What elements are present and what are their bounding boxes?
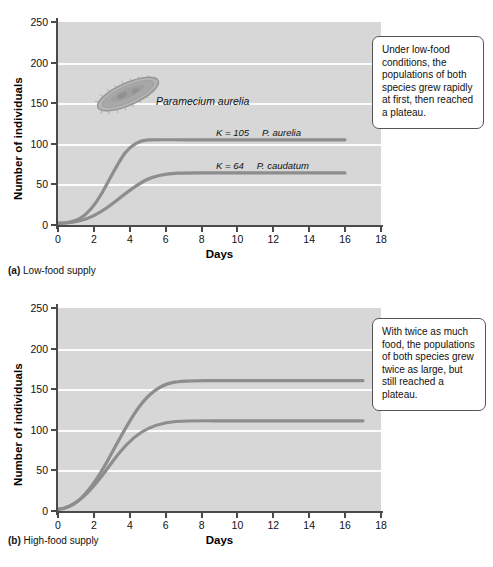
x-ticklabel-16-b: 16 xyxy=(334,520,356,530)
x-tick-2-b xyxy=(93,513,95,518)
x-tick-10-b xyxy=(236,513,238,518)
x-ticklabel-18-b: 18 xyxy=(370,520,392,530)
x-tick-14-b xyxy=(308,513,310,518)
x-tick-8-a xyxy=(201,227,203,232)
x-axis-title-a: Days xyxy=(58,248,381,260)
callout-low-food: Under low-food conditions, the populatio… xyxy=(372,36,484,129)
curve-aurelia-b xyxy=(58,381,363,510)
y-tick-100-b xyxy=(51,429,56,431)
caption-a: (a) Low-food supply xyxy=(8,265,96,276)
y-tick-250-a xyxy=(51,21,56,23)
y-ticklabel-0-b: 0 xyxy=(18,506,48,516)
y-tick-50-b xyxy=(51,469,56,471)
y-axis-a xyxy=(56,18,58,229)
x-ticklabel-8-b: 8 xyxy=(191,520,213,530)
callout-high-food: With twice as much food, the populations… xyxy=(372,318,486,411)
panel-low-food-supply: Paramecium aurelia K = 105P. aurelia K =… xyxy=(0,0,493,290)
y-tick-50-a xyxy=(51,183,56,185)
y-tick-100-a xyxy=(51,143,56,145)
x-ticklabel-0-a: 0 xyxy=(47,234,69,244)
y-tick-150-b xyxy=(51,388,56,390)
x-tick-8-b xyxy=(201,513,203,518)
curve-label-caudatum-a: K = 64P. caudatum xyxy=(216,160,309,171)
x-tick-16-b xyxy=(344,513,346,518)
k-value-aurelia-a: K = 105 xyxy=(216,127,249,138)
x-ticklabel-6-a: 6 xyxy=(155,234,177,244)
species-short-aurelia-a: P. aurelia xyxy=(262,127,301,138)
x-ticklabel-4-a: 4 xyxy=(119,234,141,244)
y-axis-b xyxy=(56,304,58,515)
curve-label-aurelia-a: K = 105P. aurelia xyxy=(216,127,301,138)
x-axis-a xyxy=(56,225,383,227)
y-tick-200-a xyxy=(51,62,56,64)
y-tick-150-a xyxy=(51,102,56,104)
caption-b-prefix: (b) xyxy=(8,535,21,546)
x-ticklabel-12-b: 12 xyxy=(262,520,284,530)
x-ticklabel-10-b: 10 xyxy=(226,520,248,530)
x-tick-0-a xyxy=(57,227,59,232)
x-ticklabel-2-a: 2 xyxy=(83,234,105,244)
x-tick-10-a xyxy=(236,227,238,232)
x-tick-18-b xyxy=(380,513,382,518)
x-tick-2-a xyxy=(93,227,95,232)
x-ticklabel-4-b: 4 xyxy=(119,520,141,530)
y-axis-title-a: Number of individuals xyxy=(12,77,24,200)
x-tick-4-b xyxy=(129,513,131,518)
x-tick-18-a xyxy=(380,227,382,232)
x-axis-title-b: Days xyxy=(58,534,381,546)
y-tick-250-b xyxy=(51,307,56,309)
caption-b-text: High-food supply xyxy=(24,535,99,546)
x-ticklabel-10-a: 10 xyxy=(226,234,248,244)
x-ticklabel-6-b: 6 xyxy=(155,520,177,530)
x-ticklabel-12-a: 12 xyxy=(262,234,284,244)
caption-a-text: Low-food supply xyxy=(23,265,96,276)
y-tick-200-b xyxy=(51,348,56,350)
caption-a-prefix: (a) xyxy=(8,265,20,276)
x-ticklabel-8-a: 8 xyxy=(191,234,213,244)
panel-high-food-supply: Paramecium caudatum K = 195P. aurelia K … xyxy=(0,290,493,567)
x-tick-12-a xyxy=(272,227,274,232)
y-ticklabel-200-a: 200 xyxy=(18,58,48,68)
x-ticklabel-2-b: 2 xyxy=(83,520,105,530)
y-ticklabel-0-a: 0 xyxy=(18,220,48,230)
y-ticklabel-250-a: 250 xyxy=(18,17,48,27)
x-ticklabel-16-a: 16 xyxy=(334,234,356,244)
x-ticklabel-14-b: 14 xyxy=(298,520,320,530)
x-tick-14-a xyxy=(308,227,310,232)
y-ticklabel-250-b: 250 xyxy=(18,303,48,313)
y-ticklabel-200-b: 200 xyxy=(18,344,48,354)
x-ticklabel-18-a: 18 xyxy=(370,234,392,244)
curve-caudatum-a xyxy=(58,173,345,224)
y-axis-title-b: Number of individuals xyxy=(12,363,24,486)
x-axis-b xyxy=(56,511,383,513)
x-tick-0-b xyxy=(57,513,59,518)
x-tick-4-a xyxy=(129,227,131,232)
caption-b: (b) High-food supply xyxy=(8,535,99,546)
x-tick-6-b xyxy=(165,513,167,518)
x-ticklabel-0-b: 0 xyxy=(47,520,69,530)
k-value-caudatum-a: K = 64 xyxy=(216,160,244,171)
x-tick-16-a xyxy=(344,227,346,232)
species-short-caudatum-a: P. caudatum xyxy=(257,160,309,171)
x-tick-6-a xyxy=(165,227,167,232)
x-ticklabel-14-a: 14 xyxy=(298,234,320,244)
x-tick-12-b xyxy=(272,513,274,518)
